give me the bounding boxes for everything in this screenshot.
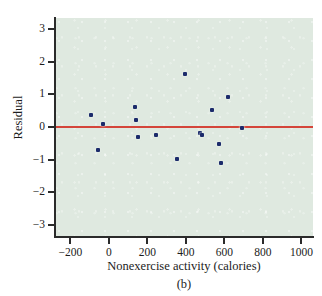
data-point bbox=[226, 95, 230, 99]
panel-caption: (b) bbox=[55, 277, 313, 292]
data-point bbox=[183, 72, 187, 76]
y-tick-mark bbox=[48, 93, 55, 95]
data-point bbox=[89, 113, 93, 117]
y-tick-mark bbox=[48, 159, 55, 161]
data-point bbox=[96, 148, 100, 152]
data-point bbox=[200, 133, 204, 137]
y-tick-mark bbox=[48, 126, 55, 128]
x-tick-mark bbox=[300, 237, 302, 244]
y-tick-mark bbox=[48, 191, 55, 193]
data-point bbox=[210, 108, 214, 112]
y-tick-mark bbox=[48, 61, 55, 63]
residual-plot-figure: 3210−1−2−3 −20002004006008001000 Residua… bbox=[0, 0, 322, 296]
data-point bbox=[133, 105, 137, 109]
y-tick-label: 3 bbox=[15, 23, 45, 35]
x-tick-mark bbox=[223, 237, 225, 244]
y-tick-label: −2 bbox=[15, 186, 45, 198]
data-point bbox=[101, 122, 105, 126]
x-tick-mark bbox=[108, 237, 110, 244]
x-tick-mark bbox=[185, 237, 187, 244]
data-point bbox=[134, 118, 138, 122]
x-tick-label: 1000 bbox=[276, 246, 322, 258]
y-tick-label: 2 bbox=[15, 56, 45, 68]
data-point bbox=[240, 126, 244, 130]
x-tick-mark bbox=[69, 237, 71, 244]
data-point bbox=[175, 157, 179, 161]
y-tick-mark bbox=[48, 224, 55, 226]
y-tick-label: −3 bbox=[15, 219, 45, 231]
zero-reference-line bbox=[55, 126, 313, 128]
x-axis-title: Nonexercise activity (calories) bbox=[55, 259, 313, 274]
y-tick-mark bbox=[48, 28, 55, 30]
y-axis-title: Residual bbox=[11, 73, 26, 163]
x-tick-mark bbox=[262, 237, 264, 244]
data-point bbox=[136, 135, 140, 139]
x-tick-mark bbox=[146, 237, 148, 244]
data-point bbox=[154, 133, 158, 137]
data-point bbox=[219, 161, 223, 165]
data-point bbox=[217, 142, 221, 146]
